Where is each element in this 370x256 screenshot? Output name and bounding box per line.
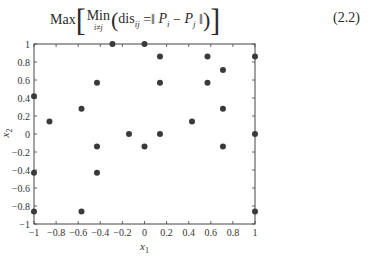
data-point (94, 80, 100, 86)
data-point (220, 144, 226, 150)
data-point (109, 41, 115, 47)
data-point (31, 93, 37, 99)
data-point (46, 118, 52, 124)
data-point (252, 208, 258, 214)
data-point (94, 170, 100, 176)
scatter-plot: −1−0.8−0.6−0.4−0.200.20.40.60.81−1−0.8−0… (0, 0, 370, 256)
data-point (31, 170, 37, 176)
y-tick-label: −0.8 (12, 201, 30, 212)
y-tick-label: 1 (25, 39, 30, 50)
x-tick-label: 0.6 (205, 227, 218, 238)
data-point (142, 144, 148, 150)
x-tick-label: −0.2 (113, 227, 131, 238)
y-axis-label: x2 (0, 129, 14, 139)
data-point (157, 131, 163, 137)
y-tick-label: 0 (25, 129, 30, 140)
x-tick-label: 0.8 (227, 227, 240, 238)
y-tick-label: 0.2 (18, 111, 31, 122)
x-tick-label: 0.2 (160, 227, 173, 238)
y-tick-label: −0.6 (12, 183, 30, 194)
x-tick-label: −1 (29, 227, 40, 238)
x-axis-label: x1 (139, 240, 149, 255)
y-tick-label: 0.8 (18, 57, 31, 68)
data-point (252, 54, 258, 60)
data-point (157, 54, 163, 60)
data-point (94, 144, 100, 150)
data-point (189, 118, 195, 124)
x-tick-label: 1 (253, 227, 258, 238)
y-tick-label: 0.6 (18, 75, 31, 86)
plot-axes: −1−0.8−0.6−0.4−0.200.20.40.60.81−1−0.8−0… (0, 39, 258, 256)
data-point (79, 208, 85, 214)
data-point (204, 80, 210, 86)
data-point (31, 208, 37, 214)
x-tick-label: −0.6 (69, 227, 87, 238)
y-tick-label: −0.4 (12, 165, 30, 176)
data-point (220, 106, 226, 112)
data-point (142, 41, 148, 47)
y-tick-label: 0.4 (18, 93, 31, 104)
x-tick-label: 0.4 (182, 227, 195, 238)
x-tick-label: 0 (142, 227, 147, 238)
data-points (31, 41, 258, 214)
data-point (204, 54, 210, 60)
x-tick-label: −0.8 (47, 227, 65, 238)
x-tick-label: −0.4 (91, 227, 109, 238)
data-point (126, 131, 132, 137)
data-point (157, 80, 163, 86)
data-point (79, 106, 85, 112)
y-tick-label: −0.2 (12, 147, 30, 158)
data-point (220, 67, 226, 73)
y-tick-label: −1 (19, 219, 30, 230)
data-point (252, 131, 258, 137)
